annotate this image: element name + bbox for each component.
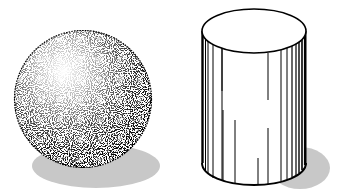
illustration-canvas — [0, 0, 340, 194]
line-shaded-cylinder — [202, 9, 306, 185]
stippled-sphere — [14, 30, 152, 168]
cylinder-top — [202, 9, 306, 53]
